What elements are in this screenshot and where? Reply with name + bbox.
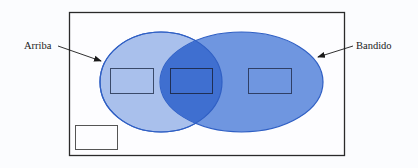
venn-svg <box>0 0 418 168</box>
venn-diagram: Arriba Bandido <box>0 0 418 168</box>
right-set-label: Bandido <box>356 40 392 52</box>
left-set-label: Arriba <box>24 40 51 52</box>
